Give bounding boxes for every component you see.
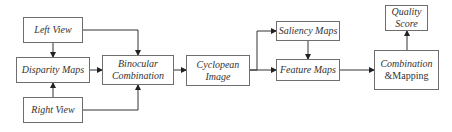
binocular-combination-line1: Binocular — [118, 58, 158, 70]
cyclopean-image-line1: Cyclopean — [197, 59, 240, 71]
pipeline-diagram: Left View Disparity Maps Right View Bino… — [0, 0, 452, 132]
quality-score-line2: Score — [395, 18, 417, 30]
feature-maps-node: Feature Maps — [276, 59, 340, 81]
binocular-combination-line2: Combination — [112, 70, 164, 82]
quality-score-line1: Quality — [392, 6, 422, 18]
left-view-label: Left View — [34, 24, 71, 36]
feature-maps-label: Feature Maps — [280, 64, 336, 76]
combination-mapping-node: Combination &Mapping — [374, 50, 439, 90]
combination-mapping-line1: Combination — [380, 58, 432, 70]
quality-score-node: Quality Score — [385, 5, 428, 31]
saliency-maps-node: Saliency Maps — [276, 21, 340, 41]
saliency-maps-label: Saliency Maps — [279, 25, 338, 37]
disparity-maps-label: Disparity Maps — [22, 64, 85, 76]
edge-left-to-binocular — [83, 30, 138, 55]
edge-right-to-binocular — [83, 85, 138, 110]
edge-cyclopean-to-saliency — [250, 31, 276, 70]
combination-mapping-line2: &Mapping — [385, 70, 429, 82]
disparity-maps-node: Disparity Maps — [16, 57, 90, 83]
cyclopean-image-line2: Image — [206, 71, 231, 83]
right-view-node: Right View — [23, 97, 83, 123]
binocular-combination-node: Binocular Combination — [102, 55, 174, 85]
left-view-node: Left View — [23, 17, 83, 43]
cyclopean-image-node: Cyclopean Image — [186, 55, 250, 86]
right-view-label: Right View — [31, 104, 74, 116]
